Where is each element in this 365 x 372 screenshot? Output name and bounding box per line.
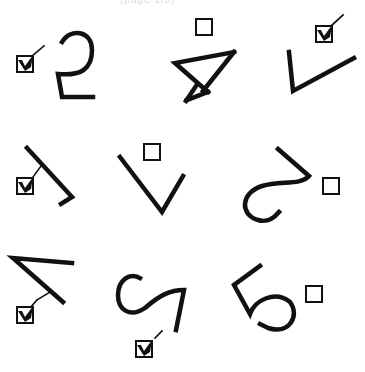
checkbox-item-3[interactable] bbox=[315, 25, 333, 43]
checkbox-item-5[interactable] bbox=[143, 143, 161, 161]
checkbox-item-1[interactable] bbox=[16, 55, 34, 73]
checkmark-icon bbox=[134, 328, 164, 358]
checkbox-item-2[interactable] bbox=[195, 18, 213, 36]
checkmark-icon bbox=[15, 165, 45, 195]
glyph-item-9 bbox=[234, 266, 294, 329]
checkmark-icon bbox=[314, 13, 344, 43]
checkmark-icon bbox=[15, 43, 45, 73]
checkbox-item-4[interactable] bbox=[16, 177, 34, 195]
checkmark-icon bbox=[15, 294, 45, 324]
glyph-item-5 bbox=[120, 157, 183, 212]
checkbox-item-6[interactable] bbox=[322, 177, 340, 195]
glyph-item-2 bbox=[175, 52, 234, 101]
glyph-layer bbox=[0, 0, 365, 372]
glyph-item-6 bbox=[245, 149, 309, 221]
checkbox-item-8[interactable] bbox=[135, 340, 153, 358]
checkbox-item-7[interactable] bbox=[16, 306, 34, 324]
checkbox-item-9[interactable] bbox=[305, 285, 323, 303]
